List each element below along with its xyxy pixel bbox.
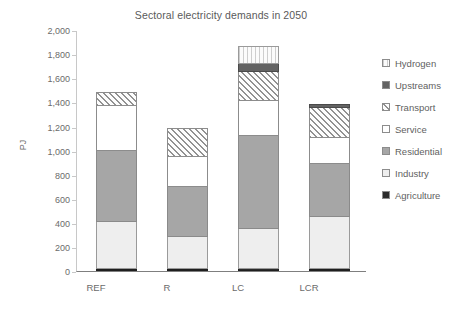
segment-industry[interactable] [167,236,208,269]
segment-service[interactable] [238,100,279,136]
legend-label: Agriculture [395,190,440,201]
segment-residential[interactable] [309,163,350,217]
y-tick-label: 1,200 [26,123,70,133]
segment-upstreams[interactable] [238,63,279,72]
legend-item-agriculture[interactable]: Agriculture [382,184,474,206]
upstreams-swatch-icon [382,81,390,89]
segment-service[interactable] [309,137,350,164]
y-tick-label: 200 [26,243,70,253]
segment-hydrogen[interactable] [238,46,279,64]
chart-legend: Hydrogen Upstreams Transport Service Res… [382,52,474,206]
segment-industry[interactable] [309,216,350,269]
y-tick-label: 400 [26,219,70,229]
y-tick-label: 600 [26,195,70,205]
plot-area [76,31,366,272]
stacked-bar-chart: Sectoral electricity demands in 2050 PJ … [0,0,474,311]
y-tick-mark [72,272,76,273]
segment-upstreams[interactable] [309,104,350,108]
hydrogen-swatch-icon [382,59,390,67]
segment-agriculture[interactable] [96,269,137,271]
transport-swatch-icon [382,103,390,111]
x-label-ref: REF [61,282,131,293]
segment-residential[interactable] [96,150,137,222]
y-tick-label: 2,000 [26,26,70,36]
legend-label: Hydrogen [395,58,436,69]
legend-item-transport[interactable]: Transport [382,96,474,118]
x-label-lcr: LCR [274,282,344,293]
segment-residential[interactable] [167,186,208,237]
segment-industry[interactable] [238,228,279,269]
y-axis-label: PJ [18,140,28,151]
legend-label: Transport [395,102,435,113]
segment-agriculture[interactable] [167,269,208,271]
legend-label: Industry [395,168,429,179]
y-tick-label: 1,000 [26,147,70,157]
industry-swatch-icon [382,169,390,177]
legend-label: Upstreams [395,80,441,91]
x-label-r: R [132,282,202,293]
chart-title: Sectoral electricity demands in 2050 [76,9,366,21]
y-tick-label: 1,800 [26,50,70,60]
legend-item-hydrogen[interactable]: Hydrogen [382,52,474,74]
segment-industry[interactable] [96,221,137,269]
agriculture-swatch-icon [382,191,390,199]
segment-residential[interactable] [238,135,279,229]
y-tick-label: 1,400 [26,98,70,108]
y-tick-label: 800 [26,171,70,181]
segment-transport[interactable] [309,107,350,138]
x-label-lc: LC [203,282,273,293]
legend-item-industry[interactable]: Industry [382,162,474,184]
y-tick-label: 1,600 [26,74,70,84]
segment-agriculture[interactable] [309,269,350,271]
legend-item-service[interactable]: Service [382,118,474,140]
segment-transport[interactable] [238,71,279,101]
legend-label: Residential [395,146,442,157]
y-tick-label: 0 [26,267,70,277]
segment-service[interactable] [167,156,208,187]
service-swatch-icon [382,125,390,133]
legend-item-upstreams[interactable]: Upstreams [382,74,474,96]
legend-label: Service [395,124,427,135]
segment-service[interactable] [96,105,137,151]
segment-transport[interactable] [167,128,208,157]
legend-item-residential[interactable]: Residential [382,140,474,162]
segment-transport[interactable] [96,92,137,106]
residential-swatch-icon [382,147,390,155]
